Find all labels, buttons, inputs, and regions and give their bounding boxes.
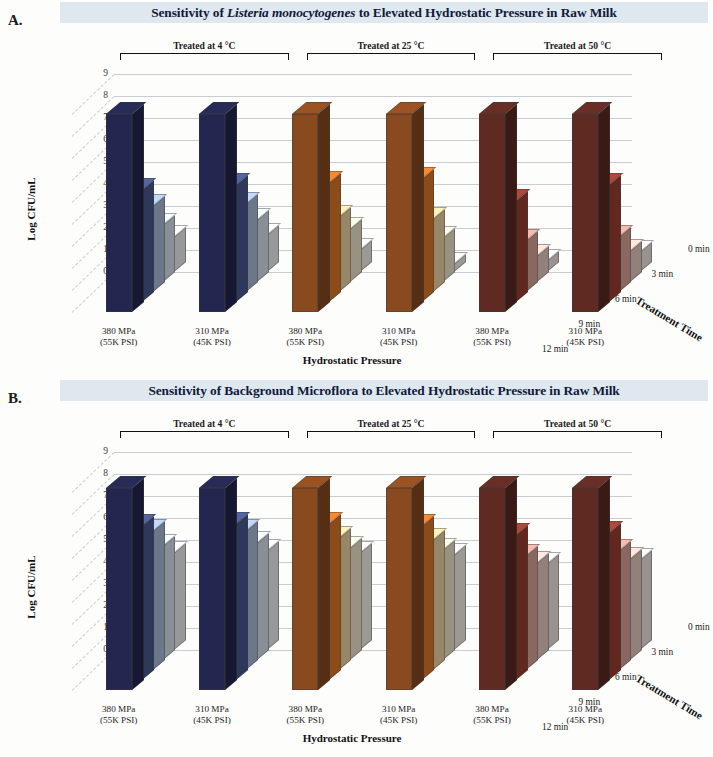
bar-side-face xyxy=(225,478,237,690)
temperature-group-bracket xyxy=(493,431,662,438)
bar-side-face xyxy=(257,210,269,282)
x-axis-label-3: 380 MPa(55K PSI) xyxy=(269,704,341,726)
temperature-group-3: Treated at 50 °C xyxy=(493,40,662,60)
gridline-horizontal xyxy=(114,518,632,519)
bar-0min-col1 xyxy=(106,476,132,690)
bar-side-face xyxy=(153,521,165,670)
bar-front-face xyxy=(199,114,225,312)
temperature-group-label: Treated at 4 °C xyxy=(120,40,289,51)
temperature-group-label: Treated at 50 °C xyxy=(493,40,662,51)
bar-side-face xyxy=(433,530,445,670)
bar-side-face xyxy=(516,525,528,680)
bar-front-face xyxy=(292,488,318,690)
panel-b-title-pre: Sensitivity of Background Microflora to … xyxy=(148,383,619,398)
bar-front-face xyxy=(199,488,225,690)
bar-side-face xyxy=(454,545,466,650)
bar-side-face xyxy=(339,528,351,670)
z-axis-label-5: 12 min xyxy=(542,344,568,354)
x-axis-label-line1: 310 MPa xyxy=(363,326,435,337)
x-axis-title: Hydrostatic Pressure xyxy=(272,732,432,744)
x-axis-label-line2: (45K PSI) xyxy=(176,715,248,726)
x-axis-label-line2: (55K PSI) xyxy=(269,715,341,726)
y-axis-title: Log CFU/mL xyxy=(25,542,37,632)
bar-0min-col2 xyxy=(199,102,225,312)
x-axis-label-line2: (55K PSI) xyxy=(269,337,341,348)
x-axis-label-line2: (45K PSI) xyxy=(176,337,248,348)
temperature-group-label: Treated at 25 °C xyxy=(307,418,476,429)
bar-front-face xyxy=(386,114,412,312)
bar-side-face xyxy=(329,173,341,302)
z-axis-title: Treatment Time xyxy=(634,294,705,343)
x-axis-label-1: 380 MPa(55K PSI) xyxy=(83,326,155,348)
gridline-horizontal xyxy=(114,140,632,141)
x-axis-label-line1: 310 MPa xyxy=(363,704,435,715)
bar-0min-col6 xyxy=(572,102,598,312)
temperature-group-bracket xyxy=(120,53,289,60)
x-axis-label-4: 310 MPa(45K PSI) xyxy=(363,704,435,726)
bar-0min-col1 xyxy=(106,102,132,312)
x-axis-label-line2: (55K PSI) xyxy=(83,715,155,726)
bar-0min-col5 xyxy=(479,102,505,312)
figure-page: A. Sensitivity of Listeria monocytogenes… xyxy=(0,0,713,757)
x-axis-label-line1: 380 MPa xyxy=(456,704,528,715)
bar-side-face xyxy=(619,541,631,670)
x-axis-label-5: 380 MPa(55K PSI) xyxy=(456,704,528,726)
bar-side-face xyxy=(225,104,237,312)
y-axis-tick: 8 xyxy=(92,90,108,100)
bar-side-face xyxy=(412,104,424,312)
bar-side-face xyxy=(433,209,445,292)
bar-front-face xyxy=(572,114,598,312)
gridline-horizontal xyxy=(114,74,632,75)
y-axis-tick: 9 xyxy=(92,446,108,456)
bar-side-face xyxy=(350,538,362,660)
y-axis-tick: 9 xyxy=(92,68,108,78)
z-axis-label-1: 0 min xyxy=(688,622,710,632)
x-axis-label-line1: 310 MPa xyxy=(176,704,248,715)
bar-side-face xyxy=(132,478,144,690)
bar-side-face xyxy=(609,523,621,680)
x-axis-label-line2: (45K PSI) xyxy=(363,337,435,348)
bar-front-face xyxy=(479,114,505,312)
bar-0min-col5 xyxy=(479,476,505,690)
bar-side-face xyxy=(412,478,424,690)
bar-0min-col4 xyxy=(386,476,412,690)
bar-side-face xyxy=(132,104,144,312)
bar-side-face xyxy=(537,553,549,660)
bar-side-face xyxy=(318,104,330,312)
gridline-horizontal xyxy=(114,496,632,497)
bar-side-face xyxy=(619,227,631,292)
temperature-group-label: Treated at 25 °C xyxy=(307,40,476,51)
bar-side-face xyxy=(505,104,517,312)
bar-0min-col3 xyxy=(292,476,318,690)
bar-0min-col2 xyxy=(199,476,225,690)
temperature-group-label: Treated at 50 °C xyxy=(493,418,662,429)
z-axis-label-2: 3 min xyxy=(652,269,674,279)
x-axis-label-line1: 310 MPa xyxy=(176,326,248,337)
bar-front-face xyxy=(292,114,318,312)
x-axis-label-line1: 380 MPa xyxy=(83,704,155,715)
bar-side-face xyxy=(360,543,372,650)
x-axis-label-line1: 380 MPa xyxy=(83,326,155,337)
bar-side-face xyxy=(339,207,351,292)
gridline-horizontal xyxy=(114,452,632,453)
bar-side-face xyxy=(640,550,652,650)
bar-side-face xyxy=(630,549,642,660)
x-axis-title: Hydrostatic Pressure xyxy=(272,354,432,366)
bar-side-face xyxy=(609,175,621,302)
panel-b-plot: 9876543210Log CFU/mLTreated at 4 °CTreat… xyxy=(0,402,713,756)
x-axis-label-2: 310 MPa(45K PSI) xyxy=(176,326,248,348)
x-axis-label-line2: (45K PSI) xyxy=(363,715,435,726)
gridline-horizontal xyxy=(114,96,632,97)
bar-front-face xyxy=(106,488,132,690)
bar-front-face xyxy=(106,114,132,312)
bar-side-face xyxy=(257,533,269,660)
panel-a-title-italic: Listeria monocytogenes xyxy=(227,5,355,20)
gridline-horizontal xyxy=(114,228,632,229)
x-axis-label-line2: (55K PSI) xyxy=(83,337,155,348)
z-axis-label-1: 0 min xyxy=(688,244,710,254)
x-axis-label-line1: 380 MPa xyxy=(456,326,528,337)
x-axis-label-5: 380 MPa(55K PSI) xyxy=(456,326,528,348)
gridline-horizontal xyxy=(114,206,632,207)
panel-b: B. Sensitivity of Background Microflora … xyxy=(0,378,713,757)
bar-side-face xyxy=(598,478,610,690)
